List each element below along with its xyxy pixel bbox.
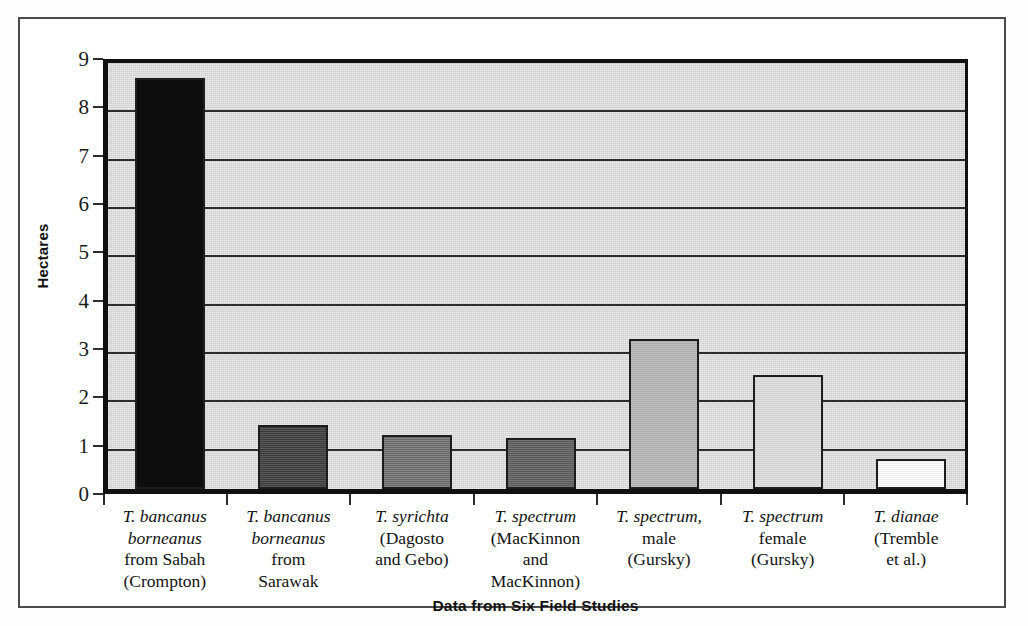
bar-texture bbox=[384, 437, 450, 487]
x-category-label-line: (Dagosto bbox=[350, 528, 474, 550]
gridline-3 bbox=[108, 352, 965, 354]
x-category-label-line: (Gursky) bbox=[721, 549, 845, 571]
x-category-label: T. spectrumfemale(Gursky) bbox=[721, 506, 845, 571]
x-category-label-line: T. bancanus bbox=[103, 506, 227, 528]
x-tick-mark bbox=[226, 494, 228, 505]
x-category-label: T. spectrum,male(Gursky) bbox=[597, 506, 721, 571]
y-tick-mark-8 bbox=[93, 106, 103, 108]
x-tick-mark bbox=[596, 494, 598, 505]
y-tick-mark-4 bbox=[93, 300, 103, 302]
x-category-label-line: T. bancanus bbox=[227, 506, 351, 528]
bar-texture bbox=[755, 377, 821, 487]
x-tick-mark bbox=[349, 494, 351, 505]
y-tick-label: 1 bbox=[63, 433, 89, 458]
bar bbox=[876, 459, 946, 489]
x-category-label-line: T. spectrum, bbox=[597, 506, 721, 528]
x-category-label-line: (MacKinnon bbox=[474, 528, 598, 550]
x-tick-mark bbox=[720, 494, 722, 505]
y-tick-mark-1 bbox=[93, 445, 103, 447]
x-category-label: T. bancanusborneanusfrom Sabah(Crompton) bbox=[103, 506, 227, 592]
paper-texture bbox=[108, 63, 965, 489]
y-tick-label: 7 bbox=[63, 143, 89, 168]
bar bbox=[506, 438, 576, 489]
y-axis-ticks: 0123456789 bbox=[61, 59, 103, 494]
bar bbox=[629, 339, 699, 489]
x-axis-title: Data from Six Field Studies bbox=[103, 597, 968, 615]
y-axis-title: Hectares bbox=[34, 224, 51, 289]
figure-border: 0123456789 Hectares T. bancanusborneanus… bbox=[18, 17, 1006, 608]
y-tick-label: 0 bbox=[63, 482, 89, 507]
x-axis-ticks bbox=[103, 494, 968, 506]
x-category-label-line: et al.) bbox=[844, 549, 968, 571]
x-category-label-line: and bbox=[474, 549, 598, 571]
x-category-label-line: MacKinnon) bbox=[474, 571, 598, 593]
x-tick-mark bbox=[843, 494, 845, 505]
x-tick-mark bbox=[473, 494, 475, 505]
y-tick-mark-9 bbox=[93, 58, 103, 60]
bar bbox=[258, 425, 328, 489]
x-category-label-line: (Tremble bbox=[844, 528, 968, 550]
gridline-6 bbox=[108, 207, 965, 209]
x-category-label-line: from bbox=[227, 549, 351, 571]
bar bbox=[382, 435, 452, 489]
x-category-label: T. bancanusborneanusfromSarawak bbox=[227, 506, 351, 592]
x-category-label-line: and Gebo) bbox=[350, 549, 474, 571]
plot-area bbox=[103, 59, 968, 494]
bar bbox=[135, 78, 205, 489]
gridline-5 bbox=[108, 255, 965, 257]
x-category-label-line: T. spectrum bbox=[474, 506, 598, 528]
x-category-label-line: borneanus bbox=[227, 528, 351, 550]
gridline-7 bbox=[108, 159, 965, 161]
x-category-label-line: male bbox=[597, 528, 721, 550]
x-category-label-line: T. spectrum bbox=[721, 506, 845, 528]
x-axis-category-labels: T. bancanusborneanusfrom Sabah(Crompton)… bbox=[103, 506, 968, 596]
gridline-4 bbox=[108, 304, 965, 306]
x-category-label-line: Sarawak bbox=[227, 571, 351, 593]
y-tick-label: 4 bbox=[63, 288, 89, 313]
y-tick-mark-6 bbox=[93, 203, 103, 205]
y-tick-mark-7 bbox=[93, 155, 103, 157]
y-tick-label: 9 bbox=[63, 47, 89, 72]
x-category-label-line: borneanus bbox=[103, 528, 227, 550]
x-category-label: T. dianae(Trembleet al.) bbox=[844, 506, 968, 571]
bar-texture bbox=[508, 440, 574, 487]
gridline-2 bbox=[108, 400, 965, 402]
x-category-label-line: (Crompton) bbox=[103, 571, 227, 593]
x-category-label-line: T. dianae bbox=[844, 506, 968, 528]
figure: 0123456789 Hectares T. bancanusborneanus… bbox=[0, 0, 1028, 626]
bar bbox=[753, 375, 823, 489]
y-tick-mark-3 bbox=[93, 348, 103, 350]
y-tick-label: 6 bbox=[63, 192, 89, 217]
x-category-label-line: female bbox=[721, 528, 845, 550]
x-category-label-line: (Gursky) bbox=[597, 549, 721, 571]
x-category-label: T. syrichta(Dagostoand Gebo) bbox=[350, 506, 474, 571]
y-tick-label: 2 bbox=[63, 385, 89, 410]
y-tick-mark-0 bbox=[93, 493, 103, 495]
y-tick-label: 3 bbox=[63, 337, 89, 362]
y-tick-mark-5 bbox=[93, 251, 103, 253]
y-tick-mark-2 bbox=[93, 396, 103, 398]
x-tick-mark bbox=[966, 494, 968, 505]
x-category-label-line: T. syrichta bbox=[350, 506, 474, 528]
bar-texture bbox=[260, 427, 326, 487]
x-category-label-line: from Sabah bbox=[103, 549, 227, 571]
x-tick-mark bbox=[103, 494, 105, 505]
gridline-8 bbox=[108, 110, 965, 112]
y-tick-label: 5 bbox=[63, 240, 89, 265]
y-tick-label: 8 bbox=[63, 95, 89, 120]
bar-texture bbox=[631, 341, 697, 487]
x-category-label: T. spectrum(MacKinnonandMacKinnon) bbox=[474, 506, 598, 592]
bar-texture bbox=[878, 461, 944, 487]
